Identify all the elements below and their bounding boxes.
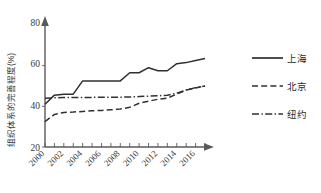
y-tick-label-40: 40 [31,101,41,111]
x-tick-label: 2012 [140,148,160,168]
legend-label: 北京 [287,81,307,92]
legend-item-北京[interactable]: 北京 [252,81,307,92]
x-tick-labels: 200020022004200620082010201220142016 [27,148,198,168]
y-tick-label-80: 80 [31,18,41,28]
y-tick-labels: 80 60 40 20 [31,18,41,153]
x-tick-label: 2004 [64,148,84,168]
legend-item-纽约[interactable]: 纽约 [252,109,307,120]
legend-item-上海[interactable]: 上海 [252,53,307,64]
x-tick-label: 2006 [83,148,103,168]
y-axis-group [41,16,49,147]
chart-canvas: 80 60 40 20 2000200220042006200820102012… [0,0,321,193]
legend-label: 上海 [287,53,307,64]
x-tick-label: 2014 [158,148,178,168]
legend-label: 纽约 [287,109,307,120]
x-tick-label: 2008 [102,148,122,168]
y-tick-label-60: 60 [31,59,41,69]
x-tick-label: 2016 [177,148,197,168]
chart-legend: 上海北京纽约 [252,53,307,120]
x-tick-label: 2002 [45,148,65,168]
series-paths-group [45,59,205,122]
y-axis-arrow-icon [41,16,49,26]
x-axis-arrow-icon [204,143,214,151]
x-tick-label: 2010 [121,148,141,168]
line-chart-figure: 80 60 40 20 2000200220042006200820102012… [0,0,321,193]
series-line-纽约 [45,86,205,98]
y-axis-title: 组织体系的完善程度(%) [6,53,16,147]
